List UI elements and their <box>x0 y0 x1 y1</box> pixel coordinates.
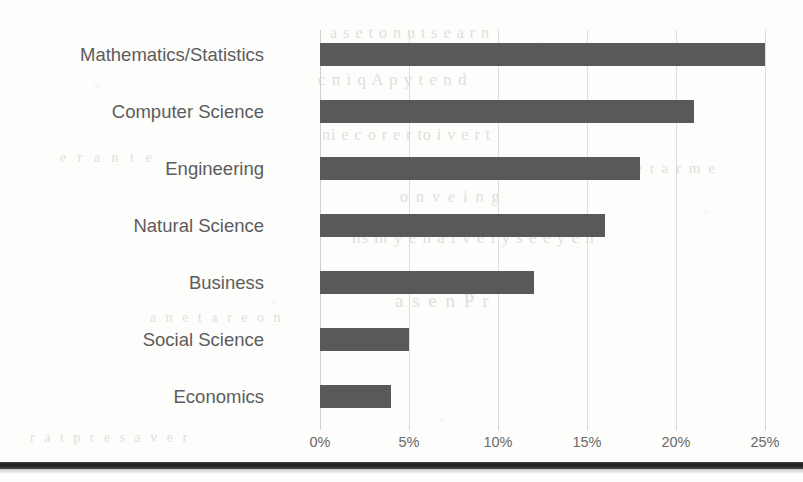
x-tick-label: 25% <box>750 434 779 450</box>
x-tick-label: 5% <box>399 434 420 450</box>
bar-chart-figure: a s e t o n u t s e a r n c n i q A p y … <box>0 0 803 482</box>
category-label: Engineering <box>0 157 264 180</box>
category-label: Mathematics/Statistics <box>0 43 264 66</box>
bar-row <box>320 372 765 429</box>
category-label: Social Science <box>0 328 264 351</box>
bar <box>320 385 391 408</box>
category-label: Computer Science <box>0 100 264 123</box>
x-tick-label: 20% <box>661 434 690 450</box>
category-label: Business <box>0 271 264 294</box>
bar-row <box>320 144 765 201</box>
bar <box>320 157 640 180</box>
bar-row <box>320 201 765 258</box>
bleed-through-text: r a t p r e s a v e r <box>30 430 190 446</box>
gridline-25 <box>765 30 766 425</box>
bar <box>320 100 694 123</box>
x-tick-label: 10% <box>483 434 512 450</box>
bar-row <box>320 87 765 144</box>
bar <box>320 271 534 294</box>
x-tick-label: 15% <box>572 434 601 450</box>
bleed-through-text: a n e t a r e o n <box>150 310 283 326</box>
page-bottom-rule-shadow <box>0 469 803 474</box>
bar-row <box>320 30 765 87</box>
plot-area: Mathematics/StatisticsComputer ScienceEn… <box>320 30 765 425</box>
bar-row <box>320 258 765 315</box>
bar-row <box>320 315 765 372</box>
bar <box>320 328 409 351</box>
bar <box>320 214 605 237</box>
axis-tick-mark <box>765 425 766 430</box>
category-label: Natural Science <box>0 214 264 237</box>
x-tick-label: 0% <box>310 434 331 450</box>
category-label: Economics <box>0 385 264 408</box>
page-bottom-rule <box>0 462 803 469</box>
bar <box>320 43 765 66</box>
